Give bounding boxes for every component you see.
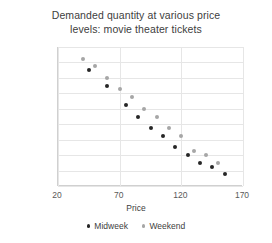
data-point-weekend bbox=[179, 134, 183, 138]
legend-item-midweek[interactable]: Midweek bbox=[87, 221, 128, 231]
data-point-midweek bbox=[198, 161, 202, 165]
data-point-weekend bbox=[192, 149, 196, 153]
data-point-midweek bbox=[136, 115, 140, 119]
data-point-midweek bbox=[173, 145, 177, 149]
data-point-midweek bbox=[186, 153, 190, 157]
data-point-weekend bbox=[105, 76, 109, 80]
data-point-weekend bbox=[81, 57, 85, 61]
x-axis-tick-label: 170 bbox=[222, 190, 262, 200]
chart-legend: MidweekWeekend bbox=[0, 221, 272, 231]
data-point-midweek bbox=[210, 165, 214, 169]
gridline-vertical bbox=[181, 47, 182, 186]
data-point-weekend bbox=[130, 95, 134, 99]
gridline-vertical bbox=[58, 47, 59, 186]
data-point-weekend bbox=[216, 161, 220, 165]
data-point-weekend bbox=[118, 87, 122, 91]
plot-area bbox=[57, 47, 242, 186]
data-point-midweek bbox=[223, 172, 227, 176]
data-point-midweek bbox=[87, 68, 91, 72]
data-point-weekend bbox=[204, 153, 208, 157]
data-point-midweek bbox=[161, 134, 165, 138]
gridline-horizontal bbox=[58, 124, 243, 125]
gridline-horizontal bbox=[58, 155, 243, 156]
gridline-vertical bbox=[120, 47, 121, 186]
legend-label: Midweek bbox=[94, 221, 128, 231]
data-point-midweek bbox=[124, 103, 128, 107]
legend-marker-icon bbox=[142, 224, 146, 228]
chart-title-line-1: Demanded quantity at various price bbox=[0, 8, 272, 22]
chart-title: Demanded quantity at various price level… bbox=[0, 8, 272, 36]
x-axis-tick-label: 70 bbox=[99, 190, 139, 200]
data-point-midweek bbox=[105, 84, 109, 88]
scatter-chart: Demanded quantity at various price level… bbox=[0, 0, 272, 243]
data-point-weekend bbox=[167, 126, 171, 130]
gridline-horizontal bbox=[58, 47, 243, 48]
gridline-vertical bbox=[243, 47, 244, 186]
gridline-horizontal bbox=[58, 186, 243, 187]
gridline-horizontal bbox=[58, 140, 243, 141]
x-axis-tick-label: 20 bbox=[37, 190, 77, 200]
gridline-horizontal bbox=[58, 62, 243, 63]
data-point-weekend bbox=[93, 64, 97, 68]
gridline-horizontal bbox=[58, 93, 243, 94]
data-point-weekend bbox=[155, 115, 159, 119]
data-point-weekend bbox=[142, 107, 146, 111]
x-axis-label: Price bbox=[0, 203, 272, 213]
legend-item-weekend[interactable]: Weekend bbox=[142, 221, 185, 231]
gridline-horizontal bbox=[58, 171, 243, 172]
legend-label: Weekend bbox=[149, 221, 185, 231]
gridline-horizontal bbox=[58, 78, 243, 79]
x-axis-tick-label: 120 bbox=[160, 190, 200, 200]
gridline-horizontal bbox=[58, 109, 243, 110]
legend-marker-icon bbox=[87, 224, 91, 228]
chart-title-line-2: levels: movie theater tickets bbox=[0, 22, 272, 36]
data-point-midweek bbox=[149, 126, 153, 130]
